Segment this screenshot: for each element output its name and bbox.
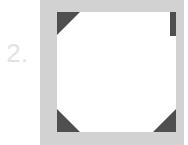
photo-corner-mount-icon — [40, 0, 184, 145]
corner-bottom-left-icon — [57, 109, 80, 132]
photo-area — [57, 12, 176, 132]
corner-top-right-icon — [170, 12, 176, 36]
step-number: 2. — [0, 40, 28, 66]
corner-top-left-icon — [57, 12, 80, 35]
corner-bottom-right-icon — [153, 109, 176, 132]
